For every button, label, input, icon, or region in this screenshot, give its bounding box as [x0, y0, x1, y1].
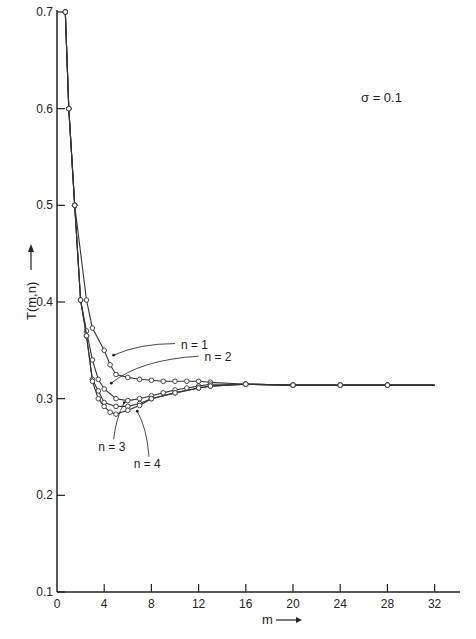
x-tick-label: 16	[239, 597, 253, 611]
x-tick-label: 24	[334, 597, 348, 611]
sigma-annotation: σ = 0.1	[361, 90, 402, 105]
series-group	[63, 10, 435, 417]
data-point	[90, 326, 95, 331]
x-tick-label: 4	[101, 597, 108, 611]
data-point	[84, 298, 89, 303]
data-point	[114, 412, 119, 417]
leader-arrow-icon	[123, 401, 126, 404]
data-point	[196, 386, 201, 391]
series-line	[65, 12, 434, 401]
data-point	[196, 379, 201, 384]
y-arrowhead-icon	[28, 244, 34, 252]
data-point	[96, 396, 101, 401]
data-point	[102, 404, 107, 409]
data-point	[185, 379, 190, 384]
data-point	[149, 378, 154, 383]
data-point	[244, 382, 249, 387]
x-axis-label: m	[262, 612, 273, 627]
data-point	[385, 383, 390, 388]
series-line	[65, 12, 434, 406]
data-point	[126, 398, 131, 403]
data-point	[137, 403, 142, 408]
y-tick-label: 0.7	[36, 5, 53, 19]
data-point	[149, 396, 154, 401]
y-tick-label: 0.2	[36, 488, 53, 502]
leader-arrow-icon	[110, 382, 113, 385]
data-point	[137, 396, 142, 401]
data-point	[78, 298, 83, 303]
data-point	[126, 375, 131, 380]
series-n3	[63, 10, 435, 409]
data-point	[84, 334, 89, 339]
y-tick-label: 0.1	[36, 585, 53, 599]
data-point	[173, 391, 178, 396]
data-point	[102, 348, 107, 353]
series-n4	[63, 10, 435, 417]
leader-line	[137, 411, 149, 456]
y-tick-label: 0.6	[36, 102, 53, 116]
data-point	[114, 396, 119, 401]
data-point	[137, 377, 142, 382]
x-tick-label: 28	[381, 597, 395, 611]
series-line	[65, 12, 434, 385]
series-label: n = 2	[205, 350, 232, 364]
data-point	[72, 203, 77, 208]
data-point	[114, 372, 119, 377]
series-n1	[63, 10, 435, 388]
series-n2	[63, 10, 435, 403]
series-line	[65, 12, 434, 414]
leader-arrow-icon	[112, 354, 115, 357]
x-tick-label: 20	[286, 597, 300, 611]
data-point	[161, 391, 166, 396]
x-arrowhead-icon	[296, 617, 302, 623]
y-tick-label: 0.3	[36, 392, 53, 406]
x-tick-label: 8	[148, 597, 155, 611]
data-point	[90, 379, 95, 384]
series-label: n = 4	[134, 457, 161, 471]
x-tick-label: 12	[192, 597, 206, 611]
data-point	[208, 384, 213, 389]
data-point	[90, 358, 95, 363]
x-tick-label: 0	[54, 597, 61, 611]
data-point	[114, 404, 119, 409]
data-point	[67, 106, 72, 111]
data-point	[338, 383, 343, 388]
y-tick-label: 0.5	[36, 198, 53, 212]
series-labels: n = 1n = 2n = 3n = 4	[98, 338, 232, 472]
data-point	[126, 408, 131, 413]
y-axis-label: T(m,n)	[24, 282, 39, 320]
data-point	[291, 383, 296, 388]
data-point	[63, 10, 68, 15]
data-point	[161, 379, 166, 384]
data-point	[108, 363, 113, 368]
x-tick-label: 32	[428, 597, 442, 611]
data-point	[108, 410, 113, 415]
series-label: n = 3	[98, 440, 125, 454]
data-point	[173, 379, 178, 384]
data-point	[102, 387, 107, 392]
leader-arrow-icon	[136, 410, 139, 413]
data-point	[96, 377, 101, 382]
leader-line	[114, 344, 175, 356]
chart: 048121620242832 0.10.20.30.40.50.60.7 m …	[0, 0, 476, 639]
